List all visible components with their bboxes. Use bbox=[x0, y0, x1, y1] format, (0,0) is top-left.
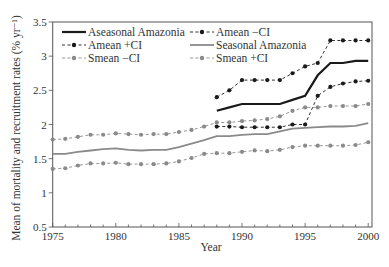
data-point bbox=[366, 38, 370, 42]
data-point bbox=[88, 133, 92, 137]
series-line bbox=[53, 142, 369, 169]
series-seasonal-amazonia bbox=[53, 123, 369, 154]
data-point bbox=[253, 78, 257, 82]
data-point bbox=[202, 152, 206, 156]
legend-item-amean-ci: Amean +CI bbox=[62, 39, 142, 51]
data-point bbox=[303, 144, 307, 148]
data-point bbox=[341, 38, 345, 42]
data-point bbox=[88, 161, 92, 165]
data-point bbox=[278, 78, 282, 82]
series-smean-ci bbox=[51, 102, 371, 142]
data-point bbox=[114, 131, 118, 135]
x-tick-label: 1980 bbox=[105, 230, 128, 242]
data-point bbox=[63, 137, 67, 141]
data-point bbox=[51, 167, 55, 171]
y-tick-label: 3 bbox=[41, 50, 47, 62]
data-point bbox=[366, 102, 370, 106]
x-axis-label: Year bbox=[200, 241, 221, 253]
data-point bbox=[316, 144, 320, 148]
data-point bbox=[366, 140, 370, 144]
data-point bbox=[316, 105, 320, 109]
data-point bbox=[177, 130, 181, 134]
series-aseasonal-amazonia bbox=[217, 61, 368, 111]
x-axis: 197519801985199019952000 bbox=[42, 223, 380, 242]
data-point bbox=[278, 114, 282, 118]
y-tick-label: 2 bbox=[41, 119, 47, 131]
data-point bbox=[126, 162, 130, 166]
series-smean-ci bbox=[51, 140, 371, 171]
data-point bbox=[265, 125, 269, 129]
data-point bbox=[316, 61, 320, 65]
x-tick-label: 1985 bbox=[168, 230, 191, 242]
legend-label: Amean +CI bbox=[88, 39, 142, 51]
data-point bbox=[114, 161, 118, 165]
data-point bbox=[290, 122, 294, 126]
data-point bbox=[215, 95, 219, 99]
data-point bbox=[303, 105, 307, 109]
data-point bbox=[353, 38, 357, 42]
data-point bbox=[240, 150, 244, 154]
data-point bbox=[341, 104, 345, 108]
y-axis-label: Mean of mortality and recruitment rates … bbox=[10, 15, 23, 241]
y-tick-label: 1.5 bbox=[33, 153, 47, 165]
data-point bbox=[366, 79, 370, 83]
data-point bbox=[202, 124, 206, 128]
legend-label: Aseasonal Amazonia bbox=[88, 26, 185, 38]
series-line bbox=[217, 61, 368, 111]
legend-item-aseasonal-amazonia: Aseasonal Amazonia bbox=[62, 26, 185, 38]
data-point bbox=[328, 85, 332, 89]
data-point bbox=[227, 120, 231, 124]
data-point bbox=[164, 161, 168, 165]
data-point bbox=[290, 71, 294, 75]
data-point bbox=[215, 151, 219, 155]
data-point bbox=[303, 64, 307, 68]
legend-item-smean-ci: Smean +CI bbox=[190, 52, 268, 64]
data-point bbox=[353, 104, 357, 108]
y-tick-label: 0.5 bbox=[33, 221, 47, 233]
legend-marker bbox=[200, 30, 204, 34]
data-point bbox=[265, 149, 269, 153]
data-point bbox=[227, 124, 231, 128]
data-point bbox=[253, 118, 257, 122]
series-line bbox=[53, 123, 369, 154]
data-point bbox=[290, 109, 294, 113]
legend-marker bbox=[72, 43, 76, 47]
y-tick-label: 1 bbox=[41, 187, 47, 199]
data-point bbox=[177, 159, 181, 163]
data-point bbox=[101, 161, 105, 165]
data-point bbox=[341, 144, 345, 148]
data-point bbox=[328, 104, 332, 108]
data-point bbox=[51, 137, 55, 141]
data-point bbox=[189, 128, 193, 132]
data-point bbox=[227, 88, 231, 92]
data-point bbox=[353, 143, 357, 147]
data-point bbox=[341, 81, 345, 85]
data-point bbox=[278, 148, 282, 152]
x-tick-label: 2000 bbox=[357, 230, 380, 242]
data-point bbox=[253, 148, 257, 152]
legend-item-amean-ci: Amean −CI bbox=[190, 26, 270, 38]
legend-label: Seasonal Amazonia bbox=[216, 39, 306, 51]
data-point bbox=[253, 125, 257, 129]
data-point bbox=[290, 145, 294, 149]
chart-canvas: 197519801985199019952000 0.511.522.533.5… bbox=[0, 0, 389, 267]
data-point bbox=[215, 120, 219, 124]
data-point bbox=[76, 135, 80, 139]
data-point bbox=[240, 119, 244, 123]
data-point bbox=[240, 125, 244, 129]
data-point bbox=[278, 125, 282, 129]
data-point bbox=[215, 124, 219, 128]
legend-marker bbox=[72, 56, 76, 60]
x-tick-label: 1990 bbox=[231, 230, 254, 242]
data-point bbox=[139, 133, 143, 137]
mortality-recruitment-chart: 197519801985199019952000 0.511.522.533.5… bbox=[0, 0, 389, 267]
data-point bbox=[101, 133, 105, 137]
data-point bbox=[152, 132, 156, 136]
data-point bbox=[265, 78, 269, 82]
data-point bbox=[328, 144, 332, 148]
data-point bbox=[353, 79, 357, 83]
legend-label: Amean −CI bbox=[216, 26, 270, 38]
data-point bbox=[63, 166, 67, 170]
series-line bbox=[53, 104, 369, 140]
x-tick-label: 1995 bbox=[294, 230, 317, 242]
